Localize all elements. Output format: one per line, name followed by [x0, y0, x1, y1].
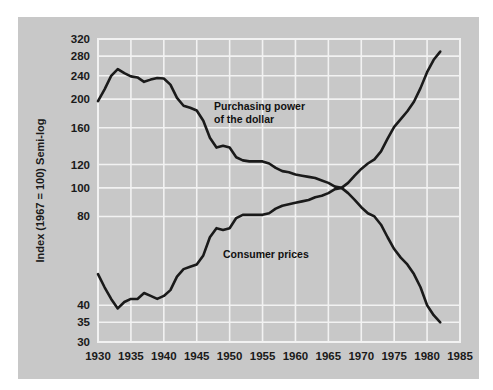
- x-tick-label: 1930: [85, 350, 111, 362]
- x-tick-label: 1950: [217, 350, 243, 362]
- x-tick-label: 1945: [184, 350, 210, 362]
- y-tick-label: 280: [71, 50, 90, 62]
- y-axis-ticks: 30354080100120160200240280320: [71, 33, 91, 348]
- y-tick-label: 200: [71, 93, 90, 105]
- x-tick-label: 1975: [381, 350, 407, 362]
- y-tick-label: 35: [77, 316, 90, 328]
- y-tick-label: 160: [71, 122, 90, 134]
- y-tick-label: 240: [71, 70, 90, 82]
- x-tick-label: 1970: [348, 350, 374, 362]
- x-tick-label: 1965: [316, 350, 342, 362]
- x-tick-label: 1985: [447, 350, 473, 362]
- data-series: [98, 52, 440, 323]
- y-tick-label: 320: [71, 33, 90, 45]
- x-tick-label: 1955: [250, 350, 276, 362]
- y-tick-label: 120: [71, 159, 90, 171]
- x-tick-label: 1940: [151, 350, 177, 362]
- annotation-purchasing-power-line1: Purchasing power: [214, 100, 305, 112]
- annotation-consumer-prices: Consumer prices: [223, 248, 309, 260]
- chart-panel: 30354080100120160200240280320 1930193519…: [18, 17, 479, 379]
- semi-log-line-chart: 30354080100120160200240280320 1930193519…: [18, 17, 479, 379]
- y-axis-title-text: Index (1967 = 100) Semi-log: [34, 119, 46, 263]
- y-tick-label: 100: [71, 182, 90, 194]
- y-tick-label: 80: [77, 210, 90, 222]
- y-tick-label: 30: [77, 336, 90, 348]
- x-tick-label: 1935: [118, 350, 144, 362]
- chart-figure: 30354080100120160200240280320 1930193519…: [0, 0, 493, 390]
- x-axis-ticks: 1930193519401945195019551960196519701975…: [85, 350, 473, 362]
- x-tick-label: 1980: [414, 350, 440, 362]
- annotation-purchasing-power-line2: of the dollar: [214, 113, 274, 125]
- y-axis-title: Index (1967 = 100) Semi-log: [34, 119, 46, 263]
- series-line: [98, 52, 440, 309]
- x-tick-label: 1960: [283, 350, 309, 362]
- y-tick-label: 40: [77, 299, 90, 311]
